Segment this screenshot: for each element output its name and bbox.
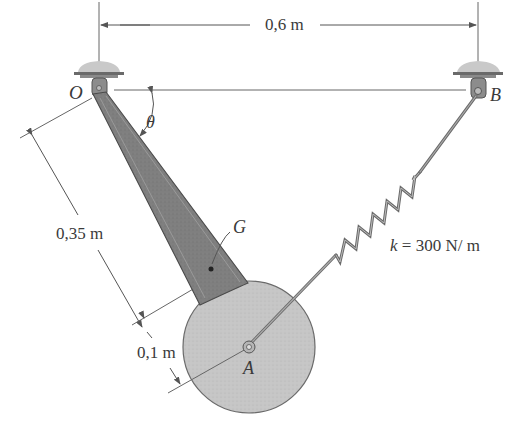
spring-ab bbox=[251, 96, 476, 343]
extension-lines bbox=[99, 2, 478, 75]
pin-a bbox=[243, 341, 255, 353]
spring-constant-label: k = 300 N/ m bbox=[390, 237, 480, 254]
bar-oa bbox=[93, 92, 248, 305]
spring-k-symbol: k bbox=[390, 236, 398, 255]
center-of-mass-g bbox=[209, 267, 214, 272]
theta-label: θ bbox=[146, 113, 155, 131]
point-a-label: A bbox=[243, 359, 254, 377]
point-o-label: O bbox=[69, 83, 83, 102]
point-g-label: G bbox=[233, 218, 246, 236]
mechanics-diagram: 0,6 m O B θ 0,35 m G k = 300 N/ m 0,1 m … bbox=[0, 0, 516, 431]
disk-radius-label: 0,1 m bbox=[135, 344, 178, 361]
bar-length-label: 0,35 m bbox=[54, 225, 105, 242]
span-dimension-label: 0,6 m bbox=[263, 16, 306, 33]
point-b-label: B bbox=[490, 86, 501, 104]
spring-k-value: = 300 N/ m bbox=[398, 236, 480, 255]
